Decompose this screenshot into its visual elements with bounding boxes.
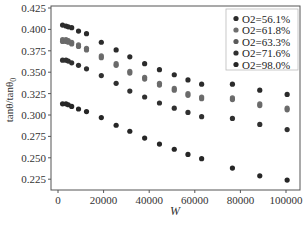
y-tick-label: 0.325 [21,88,46,100]
data-point [84,66,89,71]
y-axis-title-sub: 0 [9,78,18,82]
legend-marker-icon [233,39,238,44]
y-tick-label: 0.275 [21,130,46,142]
legend-marker-icon [233,27,238,32]
data-point [142,94,147,99]
data-point [99,55,104,60]
y-tick-label: 0.250 [21,152,46,164]
y-tick-label: 0.300 [21,109,46,121]
legend-label: O2=56.1% [242,13,290,25]
data-point [230,97,235,102]
legend-item: O2=56.1% [233,13,290,25]
y-axis-title: tanθ/tanθ0 [3,78,18,122]
legend-marker-icon [233,62,238,67]
y-axis-title-main: tanθ/tanθ [3,82,15,122]
y-tick-label: 0.400 [21,23,46,35]
data-point [76,29,81,34]
x-tick-label: 20000 [90,194,118,206]
data-point [114,81,119,86]
data-point [257,173,262,178]
data-point [185,93,190,98]
data-point [76,44,81,49]
data-point [199,96,204,101]
scatter-chart: 0.2250.2500.2750.3000.3250.3500.3750.400… [0,0,308,230]
legend-marker-icon [233,16,238,21]
data-point [172,147,177,152]
data-point [84,47,89,52]
data-point [69,60,74,65]
y-tick-label: 0.350 [21,66,46,78]
x-tick-label: 100000 [270,194,304,206]
data-point [127,129,132,134]
data-point [285,107,290,112]
data-point [157,142,162,147]
data-point [157,100,162,105]
legend-label: O2=61.8% [242,24,290,36]
data-point [199,82,204,87]
data-point [69,104,74,109]
data-point [157,67,162,72]
data-point [199,156,204,161]
data-point [285,127,290,132]
data-point [142,136,147,141]
legend-item: O2=61.8% [233,24,290,36]
legend-item: O2=63.3% [233,36,290,48]
data-point [185,110,190,115]
data-point [257,88,262,93]
data-point [185,77,190,82]
x-tick-label: 40000 [135,194,163,206]
data-point [285,177,290,182]
data-point [285,92,290,97]
data-point [142,61,147,66]
data-point [172,88,177,93]
data-point [99,40,104,45]
data-point [114,63,119,68]
data-point [114,47,119,52]
data-point [199,114,204,119]
data-point [157,82,162,87]
data-point [142,76,147,81]
data-point [257,103,262,108]
legend: O2=56.1%O2=61.8%O2=63.3%O2=71.6%O2=98.0% [226,9,298,71]
y-tick-label: 0.425 [21,2,46,14]
data-point [185,152,190,157]
data-point [172,72,177,77]
data-point [257,122,262,127]
legend-item: O2=71.6% [233,47,290,59]
data-point [99,115,104,120]
data-point [69,41,74,46]
x-tick-label: 0 [55,194,61,206]
y-axis: 0.2250.2500.2750.3000.3250.3500.3750.400… [21,2,51,185]
data-point [172,106,177,111]
legend-label: O2=63.3% [242,36,290,48]
y-tick-label: 0.225 [21,173,46,185]
data-point [69,25,74,30]
data-point [127,70,132,75]
legend-label: O2=98.0% [242,59,290,71]
y-tick-label: 0.375 [21,45,46,57]
x-axis-title: W [170,204,181,218]
data-point [99,73,104,78]
data-point [230,165,235,170]
data-point [84,109,89,114]
data-point [230,116,235,121]
data-point [127,54,132,59]
legend-marker-icon [233,50,238,55]
data-point [230,82,235,87]
x-tick-label: 80000 [227,194,255,206]
data-point [84,31,89,36]
data-point [76,63,81,68]
data-point [114,123,119,128]
x-tick-label: 60000 [181,194,209,206]
legend-item: O2=98.0% [233,59,290,71]
data-point [127,88,132,93]
data-point [76,106,81,111]
legend-label: O2=71.6% [242,47,290,59]
